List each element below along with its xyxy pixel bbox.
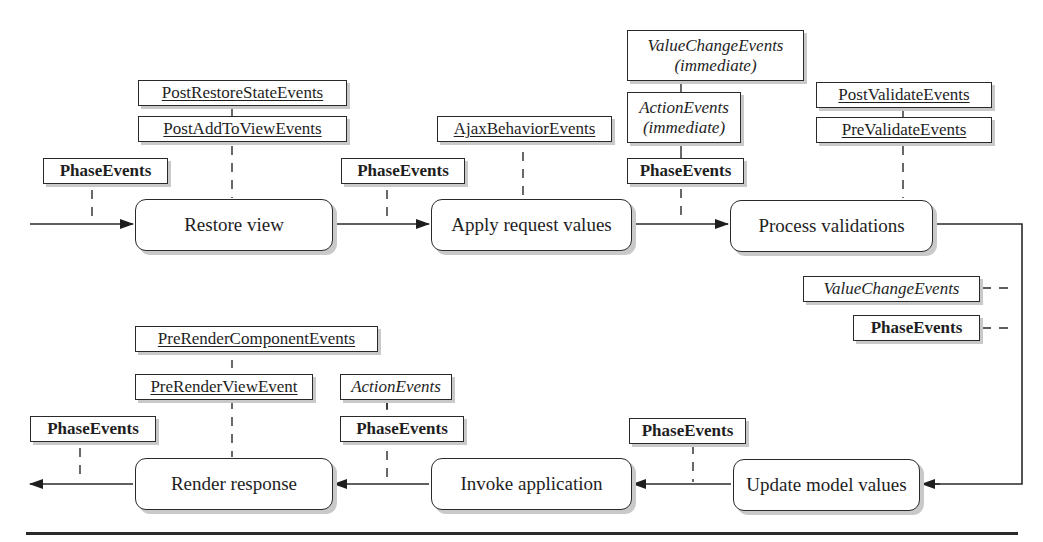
event-label: PreValidateEvents [842,120,967,140]
event-label: ValueChangeEvents [648,36,784,56]
jsf-lifecycle-diagram: Restore view Apply request values Proces… [0,0,1043,542]
event-action-immediate: ActionEvents(immediate) [627,92,741,143]
phase-apply-request-values: Apply request values [431,199,632,251]
phase-label: Update model values [746,474,906,496]
event-post-validate: PostValidateEvents [816,82,992,108]
event-value-change-immediate: ValueChangeEvents(immediate) [627,30,804,81]
event-label: PhaseEvents [60,161,152,181]
event-label: ActionEvents [351,377,441,397]
phase-process-validations: Process validations [730,200,933,252]
event-pre-validate: PreValidateEvents [816,117,992,143]
event-label: PreRenderViewEvent [150,377,297,397]
event-label: ActionEvents [639,98,729,118]
phase-invoke-application: Invoke application [431,458,632,510]
event-phase-events-before-process: PhaseEvents [627,158,744,184]
event-phase-events-before-apply: PhaseEvents [341,158,465,184]
event-pre-render-component: PreRenderComponentEvents [135,326,378,352]
event-label: PhaseEvents [871,318,963,338]
event-phase-events-before-restore: PhaseEvents [43,158,168,184]
event-phase-events-after-render: PhaseEvents [30,416,156,442]
event-label: PhaseEvents [640,161,732,181]
event-post-restore-state: PostRestoreStateEvents [138,80,347,106]
phase-label: Process validations [758,215,904,237]
event-label: AjaxBehaviorEvents [454,119,596,139]
event-pre-render-view: PreRenderViewEvent [135,374,313,400]
event-phase-events-before-invoke: PhaseEvents [629,418,746,444]
event-sublabel: (immediate) [643,118,725,138]
phase-label: Restore view [184,214,284,236]
event-value-change: ValueChangeEvents [803,276,980,302]
figure-divider [26,532,1018,535]
event-post-add-to-view: PostAddToViewEvents [138,116,347,142]
event-phase-events-before-render: PhaseEvents [340,416,464,442]
phase-label: Apply request values [451,214,611,236]
phase-render-response: Render response [135,458,333,510]
event-action: ActionEvents [340,374,452,400]
phase-update-model-values: Update model values [733,459,920,511]
phase-label: Invoke application [461,473,603,495]
event-label: PhaseEvents [47,419,139,439]
event-label: PhaseEvents [356,419,448,439]
event-label: ValueChangeEvents [824,279,960,299]
event-label: PostValidateEvents [838,85,969,105]
event-label: PostRestoreStateEvents [162,83,323,103]
phase-restore-view: Restore view [135,199,333,251]
event-sublabel: (immediate) [674,56,756,76]
event-phase-events-before-update: PhaseEvents [853,315,980,341]
phase-label: Render response [171,473,297,495]
event-label: PostAddToViewEvents [163,119,321,139]
event-label: PhaseEvents [357,161,449,181]
event-label: PhaseEvents [642,421,734,441]
event-ajax-behavior: AjaxBehaviorEvents [437,116,612,142]
event-label: PreRenderComponentEvents [158,329,355,349]
